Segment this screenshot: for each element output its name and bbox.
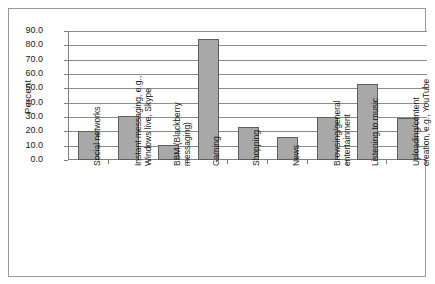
y-tick-label: 30.0	[5, 112, 43, 121]
figure-border: Percent 90.080.070.060.050.040.030.020.0…	[8, 8, 426, 277]
x-tick-mark	[108, 160, 109, 164]
y-tick-label: 70.0	[5, 55, 43, 64]
y-tick-label: 50.0	[5, 83, 43, 92]
x-tick-label: Uploading/content creation, e.g., YouTub…	[411, 48, 431, 166]
x-tick-mark	[307, 160, 308, 164]
x-tick-label: BBM (Blackberry messaging)	[172, 48, 192, 166]
y-tick-label: 0.0	[5, 155, 43, 164]
y-tick-label: 10.0	[5, 141, 43, 150]
gridline	[69, 31, 427, 32]
x-tick-mark	[386, 160, 387, 164]
chart-figure: Percent 90.080.070.060.050.040.030.020.0…	[0, 0, 435, 284]
x-tick-label: Gaming	[211, 48, 221, 166]
x-tick-label: Instant messaging, e.g., Windows live, S…	[133, 48, 153, 166]
y-tick-label: 20.0	[5, 126, 43, 135]
x-tick-mark	[227, 160, 228, 164]
x-tick-label: Social networks	[92, 48, 102, 166]
gridline	[69, 45, 427, 46]
y-tick-label: 90.0	[5, 26, 43, 35]
x-tick-mark	[267, 160, 268, 164]
y-tick-mark	[64, 160, 68, 161]
x-tick-label: Listening to music	[370, 48, 380, 166]
y-tick-label: 60.0	[5, 69, 43, 78]
y-tick-label: 40.0	[5, 98, 43, 107]
y-tick-label: 80.0	[5, 40, 43, 49]
x-tick-label: Shopping	[251, 48, 261, 166]
x-tick-label: News	[291, 48, 301, 166]
x-tick-label: Browsing/general entertainment	[332, 48, 352, 166]
